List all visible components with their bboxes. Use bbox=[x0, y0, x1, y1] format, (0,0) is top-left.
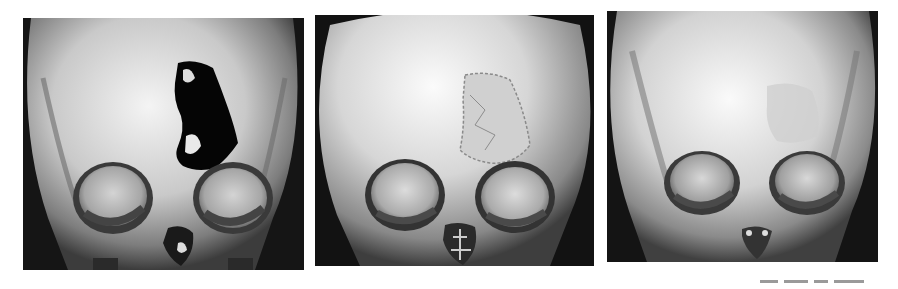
ct-panel-1-defect bbox=[23, 18, 304, 270]
ct-panel-3-graft-late bbox=[607, 11, 878, 262]
remodeled-graft bbox=[767, 83, 819, 142]
ct-panel-2-graft-early bbox=[315, 15, 594, 266]
skull-render-1 bbox=[23, 18, 304, 270]
cropped-caption-fragment bbox=[760, 280, 898, 289]
skull-render-3 bbox=[607, 11, 878, 262]
skull-render-2 bbox=[315, 15, 594, 266]
